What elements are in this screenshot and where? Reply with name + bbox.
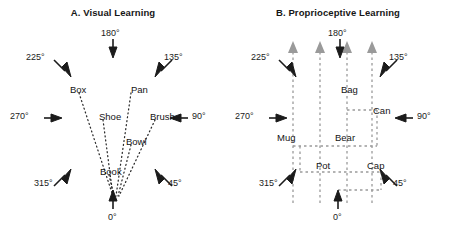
- degree-label-270: 270°: [10, 111, 29, 121]
- rail-arrowhead-1-icon: [288, 41, 298, 53]
- degree-label-225: 225°: [26, 52, 45, 62]
- degree-label-225: 225°: [251, 52, 270, 62]
- degree-label-135: 135°: [389, 52, 408, 62]
- degree-label-0: 0°: [108, 212, 117, 222]
- arrow-270-icon: [269, 114, 287, 122]
- object-label-bowl: Bowl: [126, 136, 147, 147]
- trajectory-line-shoe: [103, 120, 113, 196]
- degree-label-180: 180°: [101, 28, 120, 38]
- object-label-pan: Pan: [131, 84, 148, 95]
- degree-label-135: 135°: [164, 52, 183, 62]
- degree-label-0: 0°: [333, 212, 342, 222]
- direction-arrows-group: [44, 39, 188, 209]
- degree-label-315: 315°: [34, 178, 53, 188]
- arrow-90-icon: [395, 114, 413, 122]
- panel-proprioceptive-learning: B. Proprioceptive Learning: [225, 0, 451, 232]
- object-label-brush: Brush: [150, 111, 175, 122]
- object-label-box: Box: [70, 84, 86, 95]
- arrow-135-icon: [155, 60, 172, 77]
- degree-label-45: 45°: [393, 178, 407, 188]
- degree-label-45: 45°: [168, 178, 182, 188]
- arrow-315-icon: [279, 169, 296, 186]
- direction-arrows-group-b: [269, 39, 413, 209]
- object-label-book: Book: [100, 166, 122, 177]
- object-label-pot: Pot: [316, 160, 330, 171]
- object-label-mug: Mug: [277, 132, 295, 143]
- trajectory-line-brush: [119, 120, 155, 196]
- panel-visual-learning: A. Visual Learning: [0, 0, 226, 232]
- object-label-cap: Cap: [367, 160, 384, 171]
- object-label-shoe: Shoe: [99, 111, 121, 122]
- arrow-135-icon: [380, 60, 397, 77]
- degree-label-315: 315°: [259, 178, 278, 188]
- figure-canvas: A. Visual Learning: [0, 0, 451, 232]
- path-lines-group: [293, 52, 381, 206]
- object-label-bag: Bag: [341, 84, 358, 95]
- degree-label-90: 90°: [417, 111, 431, 121]
- trajectory-line-box: [79, 93, 113, 196]
- degree-label-180: 180°: [328, 28, 347, 38]
- arrow-0-icon: [334, 190, 342, 209]
- arrow-180-icon: [109, 39, 117, 58]
- arrow-180-icon: [336, 39, 344, 58]
- arrow-315-icon: [54, 169, 71, 186]
- rail-arrowhead-4-icon: [367, 41, 377, 53]
- arrow-0-icon: [109, 190, 117, 209]
- arrow-225-icon: [279, 60, 296, 77]
- rail-arrowheads-group: [288, 41, 377, 53]
- rail-arrowhead-2-icon: [315, 41, 325, 53]
- degree-label-270: 270°: [235, 111, 254, 121]
- object-label-can: Can: [373, 105, 390, 116]
- degree-label-90: 90°: [192, 111, 206, 121]
- object-label-bear: Bear: [335, 132, 355, 143]
- arrow-270-icon: [44, 114, 62, 122]
- arrow-225-icon: [54, 60, 71, 77]
